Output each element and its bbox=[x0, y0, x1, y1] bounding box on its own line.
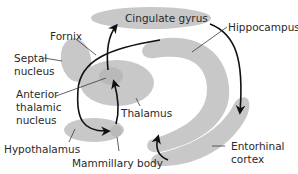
papez-circuit-diagram: Cingulate gyrus Hippocampus Fornix Septa… bbox=[0, 0, 298, 174]
label-septal-line1: Septal bbox=[14, 52, 47, 64]
leader-mammillary bbox=[117, 137, 119, 151]
mammillary-body-region bbox=[110, 125, 122, 137]
label-anterior-line3: nucleus bbox=[16, 114, 57, 126]
label-hippocampus: Hippocampus bbox=[228, 21, 298, 33]
label-anterior-line1: Anterior bbox=[16, 88, 59, 100]
label-entorhinal-line1: Entorhinal bbox=[231, 140, 285, 152]
label-hypothalamus: Hypothalamus bbox=[4, 143, 80, 155]
anterior-thalamic-nucleus-region bbox=[99, 67, 123, 85]
label-cingulate-gyrus: Cingulate gyrus bbox=[125, 12, 208, 24]
label-mammillary-body: Mammillary body bbox=[72, 157, 163, 169]
leader-hippocampus bbox=[192, 27, 227, 52]
label-entorhinal-line2: cortex bbox=[231, 153, 264, 165]
label-septal-line2: nucleus bbox=[14, 65, 55, 77]
label-thalamus: Thalamus bbox=[120, 107, 172, 119]
label-fornix: Fornix bbox=[50, 30, 82, 42]
label-anterior-line2: thalamic bbox=[16, 101, 62, 113]
